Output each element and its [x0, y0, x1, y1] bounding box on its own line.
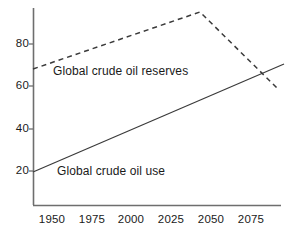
series-annotation-reserves: Global crude oil reserves [53, 64, 188, 78]
x-tick-label-2025: 2025 [151, 213, 191, 225]
y-tick-label-40: 40 [3, 122, 29, 134]
chart-plot-area [0, 0, 290, 238]
y-tick-label-20: 20 [3, 164, 29, 176]
series-annotation-use: Global crude oil use [57, 164, 165, 178]
x-tick-label-1950: 1950 [32, 213, 72, 225]
x-tick-label-2050: 2050 [191, 213, 231, 225]
y-tick-label-80: 80 [3, 37, 29, 49]
series-line-use [33, 64, 284, 172]
x-tick-label-2075: 2075 [231, 213, 271, 225]
chart-container: 80 60 40 20 1950 1975 2000 2025 2050 207… [0, 0, 290, 238]
x-tick-label-1975: 1975 [72, 213, 112, 225]
x-tick-label-2000: 2000 [111, 213, 151, 225]
y-tick-label-60: 60 [3, 79, 29, 91]
